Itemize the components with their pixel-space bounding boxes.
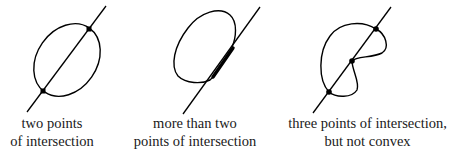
caption-line: more than two — [130, 114, 260, 132]
caption-line: two points — [2, 114, 102, 132]
secant-line — [183, 7, 260, 114]
ellipse-curve — [20, 11, 114, 109]
loop-curve — [174, 11, 236, 83]
caption-nonconvex: three points of intersection, but not co… — [280, 114, 455, 150]
intersection-point — [373, 26, 379, 32]
panel-convex-shape — [20, 6, 114, 112]
intersection-point — [41, 89, 46, 94]
caption-convex: two points of intersection — [2, 114, 102, 150]
caption-line: three points of intersection, — [280, 114, 455, 132]
panel-overlap-shape — [174, 7, 260, 114]
overlap-segment — [213, 48, 233, 77]
caption-line: but not convex — [280, 132, 455, 150]
panel-nonconvex-shape — [313, 7, 391, 113]
caption-line: of intersection — [2, 132, 102, 150]
caption-overlap: more than two points of intersection — [130, 114, 260, 150]
secant-line — [27, 6, 106, 112]
intersection-point — [87, 27, 92, 32]
caption-line: points of intersection — [130, 132, 260, 150]
intersection-point — [349, 58, 355, 64]
intersection-point — [326, 89, 332, 95]
